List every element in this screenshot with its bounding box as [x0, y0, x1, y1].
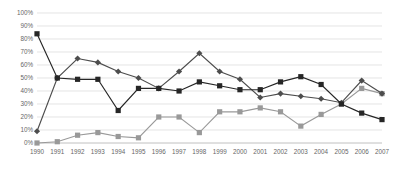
y-axis-tick-label: 60%: [20, 61, 33, 68]
y-axis-tick-label: 100%: [17, 9, 34, 16]
data-point-marker: [55, 75, 60, 80]
x-axis-tick-label: 2001: [253, 148, 268, 155]
data-point-marker: [217, 109, 222, 114]
x-axis-tick-label: 2004: [314, 148, 329, 155]
plot-area: 0%10%20%30%40%50%60%70%80%90%100% 199019…: [0, 0, 396, 170]
y-axis-tick-label: 70%: [20, 48, 33, 55]
data-series-group: [34, 31, 385, 145]
x-axis-tick-label: 1999: [213, 148, 228, 155]
y-axis-tick-labels: 0%10%20%30%40%50%60%70%80%90%100%: [17, 9, 34, 146]
x-axis-tick-label: 1997: [172, 148, 187, 155]
gridlines-group: [37, 13, 382, 143]
data-point-marker: [135, 75, 141, 81]
series-1-line: [37, 34, 382, 120]
data-point-marker: [339, 101, 344, 106]
y-axis-tick-label: 10%: [20, 126, 33, 133]
data-point-marker: [95, 59, 101, 65]
y-axis-tick-label: 80%: [20, 35, 33, 42]
series-3-line: [37, 88, 382, 143]
data-point-marker: [258, 105, 263, 110]
data-point-marker: [136, 86, 141, 91]
y-axis-tick-label: 0%: [24, 139, 34, 146]
x-axis-tick-label: 1992: [71, 148, 86, 155]
data-point-marker: [359, 86, 364, 91]
data-point-marker: [258, 87, 263, 92]
x-axis-tick-label: 2000: [233, 148, 248, 155]
data-point-marker: [176, 114, 181, 119]
data-point-marker: [116, 108, 121, 113]
data-point-marker: [298, 93, 304, 99]
data-point-marker: [75, 133, 80, 138]
y-axis-tick-label: 90%: [20, 22, 33, 29]
x-axis-tick-label: 2003: [294, 148, 309, 155]
data-point-marker: [298, 74, 303, 79]
data-point-marker: [34, 31, 39, 36]
data-point-marker: [319, 112, 324, 117]
x-axis-tick-label: 1993: [91, 148, 106, 155]
x-axis-tick-label: 2006: [355, 148, 370, 155]
x-axis-tick-label: 1990: [30, 148, 45, 155]
x-axis-tick-labels: 1990199119921993199419951996199719981999…: [30, 148, 390, 155]
data-point-marker: [156, 86, 161, 91]
y-axis-tick-label: 40%: [20, 87, 33, 94]
data-point-marker: [319, 82, 324, 87]
y-axis-tick-label: 50%: [20, 74, 33, 81]
x-axis-tick-label: 1998: [192, 148, 207, 155]
data-point-marker: [298, 124, 303, 129]
data-point-marker: [136, 135, 141, 140]
x-axis-tick-label: 1994: [111, 148, 126, 155]
data-point-marker: [95, 130, 100, 135]
x-axis-tick-label: 2005: [334, 148, 349, 155]
data-point-marker: [34, 140, 39, 145]
data-point-marker: [95, 77, 100, 82]
data-point-marker: [359, 111, 364, 116]
data-point-marker: [34, 128, 40, 134]
data-point-marker: [237, 109, 242, 114]
data-point-marker: [55, 139, 60, 144]
data-point-marker: [115, 68, 121, 74]
data-point-marker: [237, 87, 242, 92]
data-point-marker: [217, 83, 222, 88]
data-point-marker: [277, 91, 283, 97]
x-axis-tick-label: 1995: [131, 148, 146, 155]
data-point-marker: [197, 130, 202, 135]
data-point-marker: [176, 88, 181, 93]
y-axis-tick-label: 20%: [20, 113, 33, 120]
x-axis-tick-label: 1996: [152, 148, 167, 155]
data-point-marker: [75, 77, 80, 82]
chart-container: 0%10%20%30%40%50%60%70%80%90%100% 199019…: [0, 0, 396, 170]
x-axis-tick-label: 1991: [50, 148, 65, 155]
data-point-marker: [156, 114, 161, 119]
data-point-marker: [379, 117, 384, 122]
data-point-marker: [278, 79, 283, 84]
x-axis-tick-label: 2007: [375, 148, 390, 155]
x-axis-tick-label: 2002: [274, 148, 289, 155]
data-point-marker: [318, 96, 324, 102]
data-point-marker: [197, 79, 202, 84]
data-point-marker: [278, 109, 283, 114]
y-axis-tick-label: 30%: [20, 100, 33, 107]
line-chart: 0%10%20%30%40%50%60%70%80%90%100% 199019…: [0, 0, 396, 170]
data-point-marker: [116, 134, 121, 139]
